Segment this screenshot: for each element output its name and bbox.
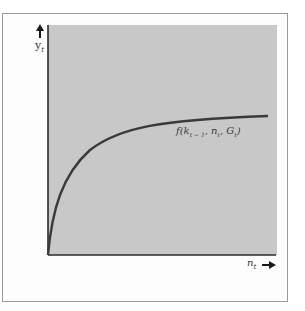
curve-label: f(kt − 1, nt, Gt) (176, 125, 241, 138)
chart-canvas (0, 0, 305, 311)
plot-area (48, 25, 277, 255)
y-arrow-icon (36, 24, 44, 38)
x-axis-label: nt (247, 257, 256, 271)
y-axis-label: yt (35, 39, 44, 54)
x-arrow-icon (262, 261, 276, 269)
